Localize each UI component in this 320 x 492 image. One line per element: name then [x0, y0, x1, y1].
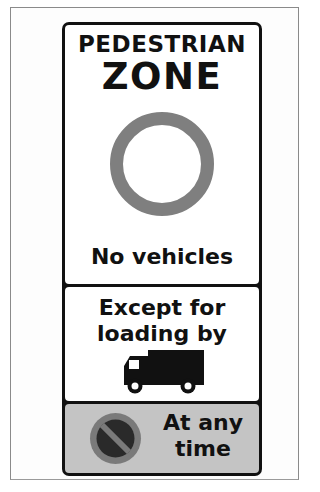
time-line1: At any [153, 410, 253, 436]
pedestrian-zone-sign: PEDESTRIAN ZONE No vehicles Except for l… [62, 22, 262, 476]
no-vehicles-caption: No vehicles [65, 244, 259, 269]
exception-line2: loading by [65, 321, 259, 347]
sign-title-line2: ZONE [65, 55, 259, 99]
exception-text: Except for loading by [65, 295, 259, 347]
exception-line1: Except for [65, 295, 259, 321]
sign-title-line1: PEDESTRIAN [65, 31, 259, 57]
sign-bottom-panel: At any time [65, 404, 259, 473]
time-line2: time [153, 436, 253, 462]
lorry-icon [122, 350, 204, 394]
no-vehicles-ring-icon [110, 112, 214, 216]
no-waiting-icon [90, 413, 141, 464]
sign-middle-panel: Except for loading by [65, 287, 259, 401]
time-restriction-text: At any time [153, 410, 253, 462]
sign-top-panel: PEDESTRIAN ZONE No vehicles [65, 25, 259, 284]
